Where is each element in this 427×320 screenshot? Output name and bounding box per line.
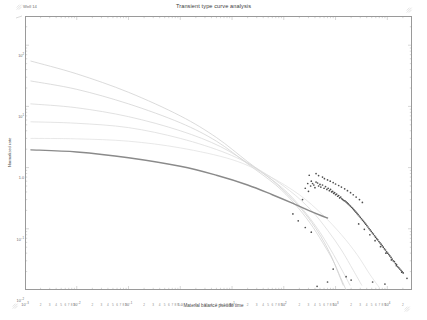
series-type-curve-1 [31,61,343,285]
y-tick-0: 102 [0,43,24,61]
resize-handle-icon-top-right[interactable] [406,7,413,14]
legend-label: Well 14 [23,4,37,9]
x-axis-title: Material balance pseudo time [0,303,427,308]
plot-canvas[interactable] [25,16,412,290]
y-tick-3: 10−1 [0,227,24,245]
page-title: Transient type curve analysis [0,3,427,9]
series-type-curve-2 [31,81,346,290]
series-type-curve-5 [31,138,379,287]
series-well-14-data [292,173,408,287]
legend-swatch [16,5,22,9]
y-tick-2: 1.0 [0,165,24,183]
y-tick-1: 101 [0,104,24,122]
chart-root: Transient type curve analysis Well 14 10… [0,0,427,320]
series-type-curve-4 [31,122,362,285]
y-axis-title: Normalized rate [7,125,12,181]
series-type-curve-3 [31,104,350,285]
